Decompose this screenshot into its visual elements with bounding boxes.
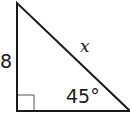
hypotenuse-label: x [80, 36, 90, 56]
right-triangle-diagram: 8 x 45° [0, 0, 130, 130]
right-angle-marker [18, 95, 34, 110]
leg-label: 8 [0, 50, 12, 72]
angle-label: 45° [66, 85, 100, 107]
